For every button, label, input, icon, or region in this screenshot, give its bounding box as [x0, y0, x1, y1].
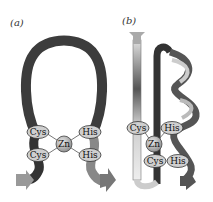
zinc-finger-diagram: (a) Cys Cys His His Zn (b): [0, 0, 213, 202]
beta-strand: [133, 40, 141, 180]
cys-label: Cys: [147, 156, 164, 166]
panel-a-label: (a): [10, 17, 24, 28]
arrow-in-icon: [16, 170, 34, 190]
his-label: His: [82, 127, 98, 137]
zn-label: Zn: [58, 139, 70, 149]
strand-turn: [137, 180, 157, 186]
panel-b-label: (b): [122, 15, 136, 26]
cys-label: Cys: [30, 127, 47, 137]
cys-label: Cys: [30, 150, 47, 160]
panel-b: (b) Cys His Zn Cys His: [122, 15, 196, 190]
his-label: His: [170, 156, 186, 166]
arrow-up-icon: [129, 32, 145, 44]
cys-label: Cys: [130, 123, 147, 133]
loop-ribbon: [26, 41, 102, 135]
his-label: His: [164, 123, 180, 133]
arrow-out-icon: [100, 168, 116, 192]
helix-highlight: [180, 100, 192, 118]
his-label: His: [82, 150, 98, 160]
zn-label: Zn: [148, 139, 160, 149]
panel-a: (a) Cys Cys His His Zn: [10, 17, 116, 192]
